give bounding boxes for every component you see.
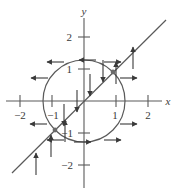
equilibrium-point-lower	[53, 128, 58, 133]
y-tick-label-neg1: −1	[61, 127, 73, 139]
axes-group	[6, 18, 162, 188]
y-tick-label-pos1: 1	[67, 63, 73, 75]
x-tick-label-neg1: −1	[47, 109, 59, 121]
equilibrium-point-upper	[111, 70, 116, 75]
x-tick-label-pos1: 1	[112, 109, 118, 121]
x-axis-label: x	[165, 95, 171, 107]
direction-field-figure: −2 −1 1 2 2 1 −1 −2 x y	[0, 0, 178, 193]
line-nullcline	[12, 20, 166, 173]
phase-plane-plot: −2 −1 1 2 2 1 −1 −2 x y	[0, 0, 178, 193]
x-tick-label-pos2: 2	[145, 109, 151, 121]
x-tick-label-neg2: −2	[14, 109, 26, 121]
y-axis-label: y	[81, 5, 87, 17]
y-tick-label-pos2: 2	[67, 31, 73, 43]
y-tick-label-neg2: −2	[61, 159, 73, 171]
